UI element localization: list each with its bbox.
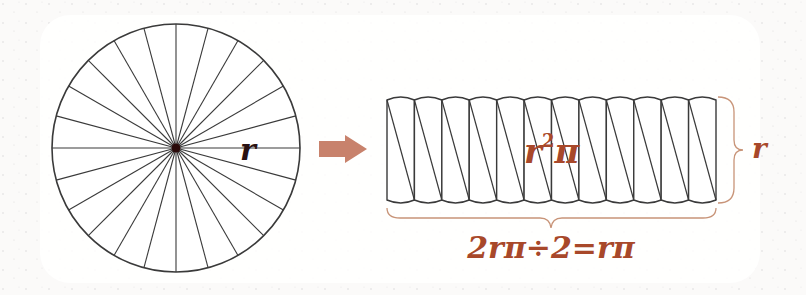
- height-label: r: [752, 132, 769, 165]
- center-point: [172, 144, 181, 153]
- width-formula: 2rπ÷2=rπ: [466, 230, 636, 265]
- area-sup: 2: [542, 130, 555, 151]
- circle-area-diagram: r r2π r 2rπ÷2=rπ: [0, 0, 806, 295]
- radius-label: r: [240, 132, 258, 167]
- area-tail: π: [553, 131, 580, 171]
- sectored-circle: [52, 24, 300, 272]
